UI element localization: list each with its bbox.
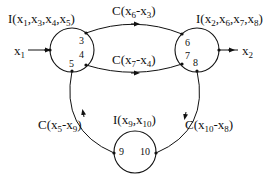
port-10: 10 <box>140 147 150 157</box>
edge-top <box>86 24 182 34</box>
edge-mid-label: C(x7-x4) <box>112 53 156 66</box>
port-4: 4 <box>79 50 84 60</box>
edge-right-label: C(x10-x8) <box>185 118 233 131</box>
edge-left <box>70 71 114 153</box>
edge-left-label: C(x5-x9) <box>38 118 82 131</box>
input-label: x1 <box>14 44 25 57</box>
port-8: 8 <box>193 58 198 68</box>
port-7: 7 <box>185 51 190 61</box>
port-6: 6 <box>185 38 190 48</box>
edge-top-label: C(x6-x3) <box>112 4 156 17</box>
port-5: 5 <box>69 59 74 69</box>
node-right-label: I(x2,x6,x7,x8) <box>196 12 263 25</box>
node-bottom-label: I(x9,x10) <box>113 113 156 126</box>
port-3: 3 <box>79 36 84 46</box>
edge-right <box>156 71 200 153</box>
node-left-label: I(x1,x3,x4,x5) <box>8 12 75 25</box>
port-9: 9 <box>119 147 124 157</box>
output-label: x2 <box>242 44 253 57</box>
